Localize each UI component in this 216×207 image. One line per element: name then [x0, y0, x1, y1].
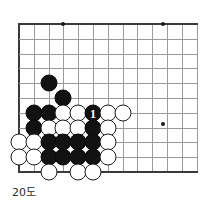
stone-white[interactable] [99, 149, 116, 166]
stone-white[interactable] [85, 164, 102, 181]
stone-white[interactable] [114, 104, 131, 121]
grid-line-horizontal [19, 68, 197, 69]
diagram-caption: 20도 [12, 183, 36, 199]
grid-line-vertical [197, 24, 198, 172]
star-point [161, 122, 165, 126]
grid-line-horizontal [19, 98, 197, 99]
stone-black[interactable] [40, 75, 57, 92]
diagram-page: 1 20도 [0, 0, 216, 207]
star-point [61, 22, 65, 26]
grid-line-horizontal [19, 39, 197, 40]
stone-move-number: 1 [86, 105, 101, 120]
grid-line-horizontal [18, 23, 198, 25]
grid-line-horizontal [19, 54, 197, 55]
go-board[interactable]: 1 [0, 0, 216, 207]
star-point [161, 22, 165, 26]
stone-white[interactable] [40, 164, 57, 181]
